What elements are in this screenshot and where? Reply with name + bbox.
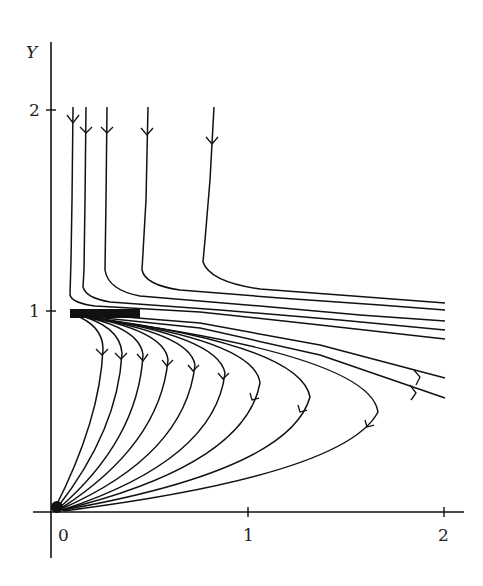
phase-portrait-chart: Y 2 1 0 1 2 bbox=[0, 0, 483, 586]
y-tick-label-2: 2 bbox=[29, 100, 40, 120]
y-axis-label: Y bbox=[26, 42, 39, 62]
top-trajectories bbox=[70, 107, 445, 339]
top-arrows bbox=[67, 115, 218, 144]
x-tick-label-2: 2 bbox=[438, 525, 449, 545]
x-tick-label-0: 0 bbox=[58, 525, 69, 545]
x-tick-label-1: 1 bbox=[243, 525, 254, 545]
bow-trajectories bbox=[55, 314, 378, 511]
origin-attractor bbox=[51, 501, 63, 513]
y-tick-label-1: 1 bbox=[29, 301, 40, 321]
